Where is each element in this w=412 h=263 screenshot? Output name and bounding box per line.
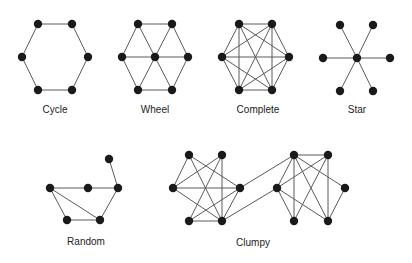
node [168,20,176,28]
edge [222,24,239,57]
edge [340,58,357,91]
node [336,21,344,29]
edge [272,24,289,57]
edge [357,25,373,58]
edge [172,24,188,57]
node [118,53,126,61]
node [169,184,177,192]
node [84,53,92,61]
edge [100,188,118,220]
node [386,54,394,62]
node [96,216,104,224]
node [218,151,226,159]
node [324,151,332,159]
edge [222,57,239,90]
edge [50,188,100,220]
edge [272,57,289,90]
graph-complete [218,20,293,94]
node [151,53,159,61]
edge [109,159,118,188]
node [341,184,349,192]
graph-wheel [118,20,192,94]
edge [138,24,155,57]
graph-star [319,21,394,95]
node [290,151,298,159]
node [34,86,42,94]
node [185,217,193,225]
node [236,184,244,192]
label-clumpy: Clumpy [236,237,270,248]
node [185,151,193,159]
edge [138,57,155,90]
node [68,20,76,28]
node [84,184,92,192]
node [134,20,142,28]
node [285,53,293,61]
graph-types-diagram [0,0,412,263]
label-cycle: Cycle [42,104,67,115]
label-complete: Complete [237,104,280,115]
edge [328,188,345,221]
edge [357,58,373,91]
label-star: Star [348,104,366,115]
node [290,217,298,225]
node [68,86,76,94]
label-wheel: Wheel [141,104,169,115]
edge [155,24,172,57]
node [34,20,42,28]
edge [122,57,138,90]
graph-cycle [18,20,92,94]
edge [340,25,357,58]
node [218,217,226,225]
node [235,86,243,94]
edge [50,188,67,220]
node [18,53,26,61]
graph-clumpy [169,151,349,225]
node [268,20,276,28]
node [235,20,243,28]
node [319,54,327,62]
node [134,86,142,94]
label-random: Random [67,236,105,247]
edge [72,24,88,57]
node [105,155,113,163]
node [168,86,176,94]
node [273,184,281,192]
edge [22,57,38,90]
node [184,53,192,61]
node [369,87,377,95]
node [114,184,122,192]
node [324,217,332,225]
edge [155,57,172,90]
graph-random [46,155,122,224]
node [353,54,361,62]
node [63,216,71,224]
edge [122,24,138,57]
node [336,87,344,95]
edge [277,188,328,221]
node [46,184,54,192]
node [369,21,377,29]
node [218,53,226,61]
edge [222,188,277,221]
edge [72,57,88,90]
edge [22,24,38,57]
edge [172,57,188,90]
node [268,86,276,94]
